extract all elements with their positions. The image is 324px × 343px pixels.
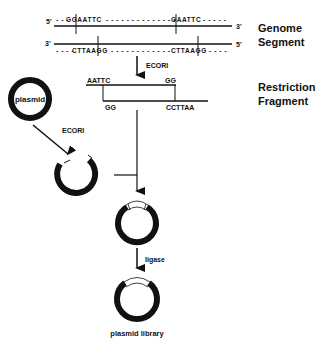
cut-plasmid-icon: [57, 160, 95, 193]
top-5prime-label: 5': [46, 18, 52, 25]
genome-label-line1: Genome: [258, 22, 302, 34]
bottom-dash-right: - - - -: [209, 47, 227, 54]
ligase-label: ligase: [145, 256, 165, 264]
ecori-top-label: ECORI: [146, 62, 168, 69]
top-3prime-label: 3': [236, 23, 242, 30]
recombinant-plasmid-unligated: [118, 201, 156, 242]
fragment-top-left-seq: AATTC: [87, 77, 110, 84]
fragment-top-right-seq: GG: [165, 77, 176, 84]
restriction-fragment: AATTC GG GG CCTTAA: [86, 77, 208, 111]
fragment-label-line2: Fragment: [258, 95, 308, 107]
diagram-canvas: 5' 3' - - - GGAATTC - - - - - - - - - - …: [0, 0, 324, 343]
genome-bottom-strand: 3' 5' - - - - CTTAAGG - - - - - - - - - …: [45, 36, 242, 56]
fragment-bottom-right-seq: CCTTAA: [166, 104, 194, 111]
fragment-label-line1: Restriction: [258, 81, 316, 93]
bottom-site2-sequence: CTTAAGG: [171, 47, 207, 54]
plasmid-library-label: plasmid library: [110, 329, 164, 338]
bottom-dash-mid: - - - - - - - - - - - -: [111, 47, 171, 54]
bottom-site1-sequence: CTTAAGG: [72, 47, 108, 54]
plasmid-label: plasmid: [15, 95, 45, 104]
top-dash-right: - - - - -: [203, 16, 226, 23]
bottom-5prime-label: 5': [236, 41, 242, 48]
fragment-bottom-left-seq: GG: [105, 104, 116, 111]
ecori-plasmid-label: ECORI: [62, 127, 84, 134]
genome-top-strand: 5' 3' - - - GGAATTC - - - - - - - - - - …: [46, 14, 242, 34]
top-site1-sequence: GGAATTC: [66, 16, 102, 23]
genome-label-line2: Segment: [258, 36, 305, 48]
plasmid-library-icon: [117, 278, 157, 320]
top-dash-mid: - - - - - - - - - - - - - -: [106, 16, 176, 23]
bottom-3prime-label: 3': [45, 40, 51, 47]
